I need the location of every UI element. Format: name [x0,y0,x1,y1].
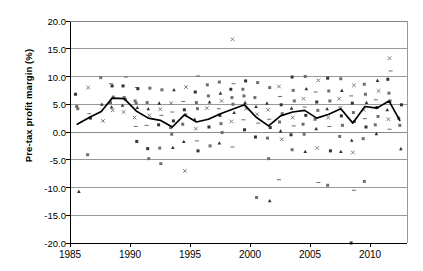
scatter-point [352,111,355,114]
scatter-point [74,93,77,96]
scatter-point [230,146,234,147]
scatter-point [386,78,389,81]
scatter-point [363,180,366,183]
scatter-point [170,133,173,136]
scatter-point [267,119,271,120]
scatter-point [377,89,381,93]
scatter-point [110,105,114,108]
scatter-point [241,88,244,91]
scatter-point [241,119,245,120]
scatter-point [243,101,247,104]
scatter-point [351,102,354,105]
scatter-point [159,162,162,165]
scatter-point [244,79,247,82]
scatter-point [133,116,137,120]
scatter-point [292,125,296,126]
scatter-point [172,119,175,122]
scatter-point [349,95,353,96]
scatter-point [229,88,232,91]
scatter-point [86,153,89,156]
scatter-point [197,149,200,152]
x-tick-label: 2005 [299,249,321,260]
scatter-point [135,102,138,105]
scatter-point [124,77,128,78]
scatter-point [374,123,377,126]
scatter-point [329,149,332,152]
y-tick-label: 20.0 [26,16,66,27]
scatter-point [291,76,294,79]
scatter-point [315,146,319,150]
scatter-point [304,114,307,117]
x-tick-label: 2000 [239,249,261,260]
scatter-point [207,94,210,97]
scatter-point [303,107,307,108]
scatter-point [364,126,367,129]
scatter-point [242,94,245,97]
scatter-point [196,75,200,76]
scatter-point [111,84,114,87]
x-tick-label: 1990 [119,249,141,260]
scatter-point [99,76,102,79]
scatter-point [315,101,318,104]
scatter-point [398,124,401,127]
scatter-point [338,107,342,108]
scatter-point [280,137,284,141]
y-tick-label: -15.0 [26,210,66,221]
scatter-point [181,123,184,126]
y-tick-label: 5.0 [26,99,66,110]
scatter-point [231,38,235,42]
scatter-point [207,126,210,129]
scatter-point [230,120,234,124]
scatter-point [232,111,236,114]
scatter-point [111,109,115,113]
scatter-point [302,97,306,101]
scatter-point [352,190,356,191]
scatter-point [325,107,329,110]
scatter-point [160,88,163,91]
scatter-point [219,91,223,94]
scatter-point [317,79,321,83]
scatter-point [86,86,90,90]
scatter-point [182,140,186,143]
scatter-point [377,115,380,118]
scatter-point [87,113,91,114]
scatter-point [337,97,341,101]
scatter-point [256,123,260,124]
scatter-point [206,83,209,86]
scatter-point [364,93,367,96]
scatter-point [158,147,161,150]
scatter-point [280,103,283,106]
scatter-point [376,79,380,82]
scatter-point [292,89,295,92]
scatter-point [170,112,174,113]
scatter-point [340,89,344,92]
scatter-point [148,87,151,90]
scatter-point [243,128,246,131]
scatter-point [389,70,393,71]
scatter-point [221,131,224,134]
scatter-point [350,139,354,142]
scatter-point [302,123,305,126]
scatter-point [195,101,198,104]
scatter-point [279,129,283,132]
scatter-point [181,101,185,102]
scatter-point [327,126,331,127]
scatter-point [328,99,331,102]
scatter-point [385,108,389,111]
scatter-point [183,108,186,111]
scatter-point [134,126,138,127]
scatter-point [209,144,212,147]
x-tick-label: 1985 [59,249,81,260]
scatter-point [146,147,149,150]
scatter-point [157,123,160,126]
scatter-point [278,96,282,97]
scatter-point [135,140,138,143]
scatter-point [339,77,342,80]
scatter-point [147,157,150,160]
scatter-point [217,108,221,109]
scatter-point [303,133,306,136]
scatter-markers [74,38,403,245]
scatter-point [290,106,294,109]
scatter-point [194,91,197,94]
scatter-point [136,87,139,90]
